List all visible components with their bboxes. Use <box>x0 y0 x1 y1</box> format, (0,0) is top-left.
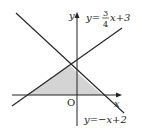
y-axis-arrow-icon <box>75 12 80 18</box>
rising-eq-prefix: y= <box>85 12 100 23</box>
coordinate-diagram: y x O y= 3 4 x+3 y=−x+2 <box>0 0 142 134</box>
rising-eq-suffix: x+3 <box>110 12 130 23</box>
x-axis-arrow-icon <box>116 93 122 98</box>
x-axis-label: x <box>114 98 120 109</box>
origin-label: O <box>67 97 75 108</box>
shaded-region <box>27 65 102 95</box>
rising-eq-den: 4 <box>103 20 108 29</box>
rising-eq-num: 3 <box>103 9 108 18</box>
falling-eq-label: y=−x+2 <box>83 114 127 125</box>
y-axis-label: y <box>68 10 75 21</box>
